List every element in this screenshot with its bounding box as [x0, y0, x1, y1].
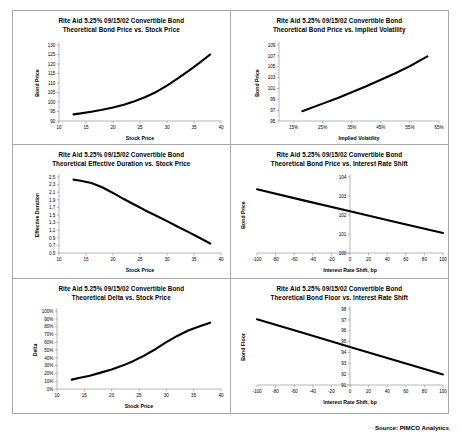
svg-text:10: 10	[56, 125, 62, 130]
svg-text:Stock Price: Stock Price	[126, 267, 154, 273]
svg-text:45%: 45%	[376, 125, 385, 130]
svg-text:Bond Price: Bond Price	[34, 69, 40, 96]
chart-panel-bond-floor-vs-interest-rate-shift: Rite Aid 5.25% 09/15/02 Convertible Bond…	[231, 279, 449, 413]
svg-text:0.7: 0.7	[49, 243, 56, 248]
svg-text:95: 95	[341, 339, 347, 344]
svg-text:95: 95	[50, 109, 56, 114]
svg-text:-20: -20	[328, 257, 335, 262]
svg-text:Bond Floor: Bond Floor	[240, 333, 246, 361]
svg-text:35: 35	[191, 125, 197, 130]
svg-text:100: 100	[439, 389, 447, 394]
svg-text:2.3: 2.3	[49, 182, 56, 187]
svg-text:125: 125	[48, 52, 56, 57]
chart-panel-delta-vs-stock-price: Rite Aid 5.25% 09/15/02 Convertible Bond…	[13, 279, 231, 413]
svg-text:91: 91	[341, 383, 347, 388]
svg-text:35: 35	[191, 257, 197, 262]
svg-text:Delta: Delta	[32, 344, 38, 357]
svg-text:60: 60	[403, 257, 409, 262]
svg-text:25%: 25%	[318, 125, 327, 130]
svg-text:93: 93	[341, 361, 347, 366]
svg-text:100: 100	[338, 251, 346, 256]
svg-text:-40: -40	[309, 257, 316, 262]
plot-area-5: 9192939495969798-100-80-60-40-2002040608…	[231, 279, 449, 413]
svg-text:1.9: 1.9	[49, 198, 56, 203]
svg-text:-60: -60	[290, 389, 297, 394]
svg-text:-100: -100	[252, 389, 262, 394]
plot-area-2: 0.50.70.91.11.31.51.71.92.12.32.51015202…	[13, 145, 230, 278]
svg-text:40: 40	[218, 393, 224, 398]
svg-text:30%: 30%	[44, 363, 53, 368]
svg-text:97: 97	[341, 318, 347, 323]
svg-text:97: 97	[270, 108, 276, 113]
svg-text:-80: -80	[272, 389, 279, 394]
svg-text:20: 20	[109, 393, 115, 398]
svg-text:90: 90	[50, 119, 56, 124]
svg-text:1.5: 1.5	[49, 213, 56, 218]
chart-grid: Rite Aid 5.25% 09/15/02 Convertible Bond…	[12, 10, 449, 414]
svg-text:94: 94	[341, 350, 347, 355]
svg-text:10%: 10%	[44, 379, 53, 384]
plot-area-3: 100101102103104-100-80-60-40-20020406080…	[231, 145, 449, 278]
svg-text:-100: -100	[252, 257, 262, 262]
svg-text:0: 0	[348, 257, 351, 262]
svg-text:Bond Price: Bond Price	[240, 201, 246, 228]
svg-text:Bond Price: Bond Price	[254, 69, 260, 96]
svg-text:Effective Duration: Effective Duration	[34, 193, 40, 237]
svg-text:99: 99	[270, 97, 276, 102]
svg-text:25: 25	[136, 393, 142, 398]
svg-text:80: 80	[421, 389, 427, 394]
svg-text:130: 130	[48, 43, 56, 48]
svg-text:101: 101	[338, 232, 346, 237]
svg-text:10: 10	[54, 393, 60, 398]
svg-text:60: 60	[403, 389, 409, 394]
svg-text:103: 103	[338, 194, 346, 199]
svg-text:15: 15	[82, 393, 88, 398]
svg-text:107: 107	[267, 54, 275, 59]
svg-text:35: 35	[191, 393, 197, 398]
svg-text:80: 80	[421, 257, 427, 262]
svg-text:40: 40	[218, 257, 224, 262]
svg-text:20: 20	[110, 257, 116, 262]
svg-text:Interest Rate Shift, bp: Interest Rate Shift, bp	[323, 399, 377, 405]
svg-text:109: 109	[267, 43, 275, 48]
plot-area-4: 0%10%20%30%40%50%60%70%80%90%100%1015202…	[13, 279, 230, 413]
svg-text:110: 110	[48, 81, 56, 86]
svg-text:115: 115	[48, 71, 56, 76]
svg-text:92: 92	[341, 372, 347, 377]
svg-text:1.1: 1.1	[49, 228, 56, 233]
svg-text:20%: 20%	[44, 371, 53, 376]
svg-text:95: 95	[270, 119, 276, 124]
svg-text:Interest Rate Shift, bp: Interest Rate Shift, bp	[323, 267, 377, 273]
svg-text:105: 105	[48, 90, 56, 95]
svg-text:35%: 35%	[347, 125, 356, 130]
svg-text:20: 20	[110, 125, 116, 130]
svg-text:40: 40	[384, 389, 390, 394]
svg-text:2.5: 2.5	[49, 175, 56, 180]
chart-panel-effective-duration-vs-stock-price: Rite Aid 5.25% 09/15/02 Convertible Bond…	[13, 145, 231, 279]
svg-text:Stock Price: Stock Price	[126, 135, 154, 141]
svg-text:Implied Volatility: Implied Volatility	[338, 135, 379, 141]
svg-text:Stock Price: Stock Price	[125, 403, 153, 409]
svg-text:90%: 90%	[44, 317, 53, 322]
svg-text:15%: 15%	[288, 125, 297, 130]
svg-text:0.5: 0.5	[49, 251, 56, 256]
chart-panel-bond-price-vs-interest-rate-shift: Rite Aid 5.25% 09/15/02 Convertible Bond…	[231, 145, 449, 279]
svg-text:10: 10	[56, 257, 62, 262]
svg-text:20: 20	[366, 257, 372, 262]
source-note: Source: PIMCO Analytics	[375, 424, 449, 431]
svg-text:104: 104	[338, 175, 346, 180]
svg-text:15: 15	[83, 257, 89, 262]
svg-text:55%: 55%	[405, 125, 414, 130]
svg-text:40: 40	[218, 125, 224, 130]
figure-sheet: Rite Aid 5.25% 09/15/02 Convertible Bond…	[0, 0, 461, 443]
svg-text:25: 25	[137, 257, 143, 262]
svg-text:-80: -80	[272, 257, 279, 262]
svg-text:30: 30	[164, 257, 170, 262]
svg-text:101: 101	[267, 86, 275, 91]
svg-text:15: 15	[83, 125, 89, 130]
svg-text:100: 100	[439, 257, 447, 262]
svg-text:25: 25	[137, 125, 143, 130]
svg-text:70%: 70%	[44, 332, 53, 337]
svg-text:102: 102	[338, 213, 346, 218]
svg-text:2.1: 2.1	[49, 190, 56, 195]
